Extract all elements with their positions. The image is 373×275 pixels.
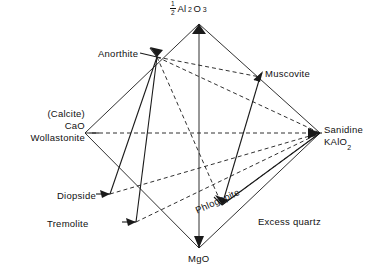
label-kalo2: KAlO2 xyxy=(324,136,363,151)
edge-al2o3-cao xyxy=(85,24,199,133)
label-tremolite: Tremolite xyxy=(47,218,89,230)
tie-tremolite-sanidine xyxy=(136,133,320,222)
label-sanidine: Sanidine xyxy=(324,124,363,136)
label-cao-group: (Calcite) CaO Wollastonite xyxy=(13,108,85,144)
label-cao: CaO xyxy=(13,120,85,132)
label-sanidine-group: Sanidine KAlO2 xyxy=(324,124,363,151)
alumina-sub-3: 3 xyxy=(203,6,207,15)
alumina-sub-2: 2 xyxy=(188,6,192,15)
phase-diagram-canvas: 1 2 Al2O3 Anorthite Muscovite (Calcite) … xyxy=(0,0,373,275)
tie-anorthite-muscovite xyxy=(157,57,260,77)
alumina-al: Al xyxy=(178,3,187,15)
marker-tremolite xyxy=(126,218,136,226)
label-diopside: Diopside xyxy=(57,190,96,202)
label-calcite: (Calcite) xyxy=(13,108,85,120)
marker-mgo xyxy=(194,236,204,248)
marker-diopside xyxy=(100,190,110,198)
label-half-alumina: 1 2 Al2O3 xyxy=(170,1,207,16)
fraction-denominator: 2 xyxy=(170,10,176,17)
label-wollastonite: Wollastonite xyxy=(13,132,85,144)
label-excess-quartz: Excess quartz xyxy=(258,216,321,228)
edge-cao-mgo xyxy=(85,133,199,248)
tie-anorthite-diopside xyxy=(110,57,157,194)
label-muscovite: Muscovite xyxy=(265,68,310,80)
fraction-numerator: 1 xyxy=(170,1,176,8)
label-mgo: MgO xyxy=(188,253,209,265)
tie-anorthite-phlogopite xyxy=(157,57,222,205)
alumina-o: O xyxy=(194,3,202,15)
fraction-one-half: 1 2 xyxy=(170,1,176,16)
kalo2-sub-2: 2 xyxy=(347,144,351,151)
label-anorthite: Anorthite xyxy=(98,48,138,60)
kalo2-main: KAlO xyxy=(324,136,347,147)
